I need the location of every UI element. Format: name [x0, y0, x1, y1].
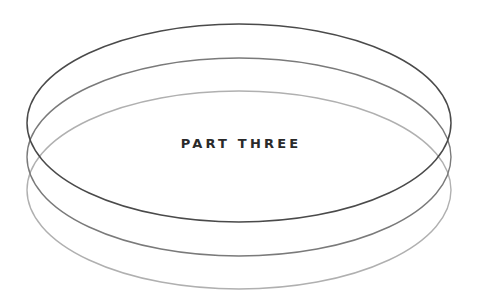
part-divider-page: PART THREE: [0, 0, 482, 307]
top-ring: [27, 24, 451, 222]
section-title: PART THREE: [0, 136, 482, 151]
middle-ring: [27, 58, 451, 256]
stacked-rings-graphic: [0, 0, 482, 307]
bottom-ring: [27, 91, 451, 289]
